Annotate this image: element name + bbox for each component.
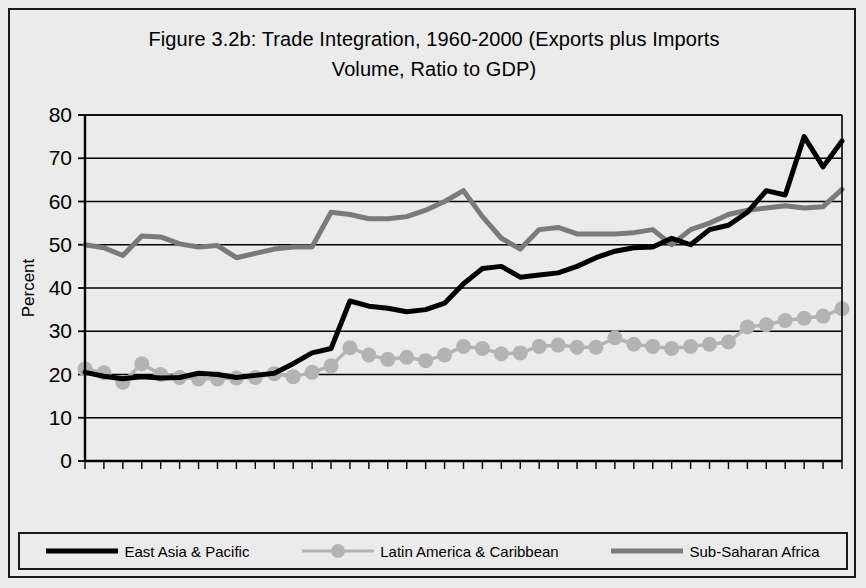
x-axis-tick-labels-group: 196019651970197519801985199019952000	[62, 475, 858, 480]
x-axis-tick-label: 2000	[819, 475, 858, 480]
series-marker	[437, 348, 452, 363]
series-marker	[645, 339, 660, 354]
series-marker	[664, 341, 679, 356]
series-marker	[286, 369, 301, 384]
y-axis-tick-label: 70	[49, 146, 72, 169]
y-axis-tick-label: 0	[60, 449, 72, 472]
series-marker	[626, 337, 641, 352]
series-marker	[702, 337, 717, 352]
series-marker	[456, 339, 471, 354]
legend-label-latin-america-caribbean: Latin America & Caribbean	[380, 543, 558, 560]
y-axis-tick-label: 30	[49, 319, 72, 342]
series-marker	[607, 330, 622, 345]
y-axis-tick-label: 10	[49, 406, 72, 429]
series-marker	[740, 319, 755, 334]
series-marker	[342, 340, 357, 355]
legend-item-sub-saharan-africa: Sub-Saharan Africa	[611, 543, 819, 560]
series-marker	[551, 338, 566, 353]
x-axis-tick-label: 1975	[346, 475, 393, 480]
series-marker	[683, 339, 698, 354]
series-marker	[778, 313, 793, 328]
series-marker	[816, 309, 831, 324]
legend-label-sub-saharan-africa: Sub-Saharan Africa	[689, 543, 819, 560]
series-marker	[532, 339, 547, 354]
y-axis-tick-label: 80	[49, 103, 72, 126]
x-axis-tick-label: 1970	[251, 475, 298, 480]
series-marker	[475, 341, 490, 356]
plot-area: 01020304050607080 1960196519701975198019…	[10, 100, 858, 480]
x-axis-tick-label: 1980	[440, 475, 487, 480]
series-marker	[380, 352, 395, 367]
series-marker	[721, 335, 736, 350]
chart-title-line-2: Volume, Ratio to GDP)	[10, 54, 858, 84]
legend-swatch-sub-saharan-africa	[611, 544, 683, 558]
x-axis-tick-label: 1990	[629, 475, 676, 480]
y-axis-tick-label: 60	[49, 190, 72, 213]
series-marker	[418, 353, 433, 368]
line-chart-svg: 01020304050607080 1960196519701975198019…	[10, 100, 858, 480]
series-marker	[134, 356, 149, 371]
series-marker	[570, 340, 585, 355]
x-axis-tick-label: 1985	[535, 475, 582, 480]
y-axis-tick-label: 40	[49, 276, 72, 299]
chart-title: Figure 3.2b: Trade Integration, 1960-200…	[10, 24, 858, 84]
series-marker	[361, 348, 376, 363]
x-axis-tick-label: 1960	[62, 475, 109, 480]
legend-swatch-latin-america-caribbean	[302, 544, 374, 558]
series-marker	[759, 317, 774, 332]
legend-item-latin-america-caribbean: Latin America & Caribbean	[302, 543, 558, 560]
series-marker	[324, 358, 339, 373]
series-marker	[513, 345, 528, 360]
x-axis-tick-label: 1965	[156, 475, 203, 480]
legend-label-east-asia-pacific: East Asia & Pacific	[124, 543, 249, 560]
chart-title-line-1: Figure 3.2b: Trade Integration, 1960-200…	[10, 24, 858, 54]
legend-swatch-east-asia-pacific	[46, 544, 118, 558]
series-marker	[494, 346, 509, 361]
series-marker	[305, 365, 320, 380]
series-marker	[399, 350, 414, 365]
y-axis-tick-label: 50	[49, 233, 72, 256]
y-axis-title: Percent	[19, 258, 38, 317]
legend-item-east-asia-pacific: East Asia & Pacific	[46, 543, 249, 560]
data-series-group	[78, 137, 850, 390]
chart-legend: East Asia & Pacific Latin America & Cari…	[18, 532, 848, 570]
y-axis-tick-label: 20	[49, 363, 72, 386]
figure-container: Figure 3.2b: Trade Integration, 1960-200…	[8, 8, 856, 578]
y-axis-tick-labels-group: 01020304050607080	[49, 103, 72, 472]
series-marker	[588, 340, 603, 355]
x-axis-tick-label: 1995	[724, 475, 771, 480]
series-marker	[797, 311, 812, 326]
x-axis-minor-ticks-group	[85, 461, 842, 469]
